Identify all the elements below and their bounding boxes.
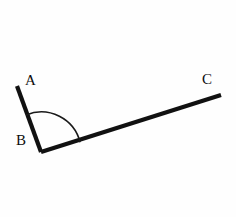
point-label-c: C xyxy=(202,72,212,87)
ray-b-to-c xyxy=(41,95,221,152)
point-label-b: B xyxy=(16,133,26,148)
angle-figure-svg xyxy=(0,0,236,217)
point-label-a: A xyxy=(25,73,36,88)
angle-figure-canvas: A B C xyxy=(0,0,236,217)
